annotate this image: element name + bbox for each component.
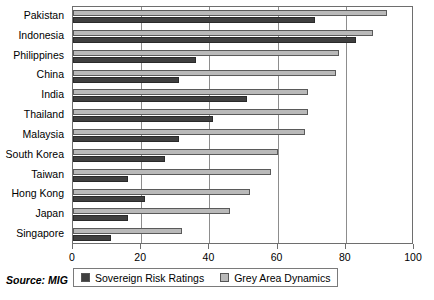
y-axis-label: China	[0, 69, 64, 80]
x-axis-tick-label: 0	[69, 251, 75, 263]
x-axis-tick	[208, 244, 209, 249]
bar-grey-area-dynamics	[73, 149, 278, 155]
y-axis-category-labels: PakistanIndonesiaPhilippinesChinaIndiaTh…	[0, 6, 68, 244]
bar-sovereign-risk-ratings	[73, 196, 145, 202]
y-axis-label: Singapore	[0, 228, 64, 239]
bar-row	[73, 67, 412, 87]
legend-label: Grey Area Dynamics	[234, 272, 330, 284]
bar-row	[73, 7, 412, 27]
bar-sovereign-risk-ratings	[73, 77, 179, 83]
bar-row	[73, 47, 412, 67]
bar-sovereign-risk-ratings	[73, 96, 247, 102]
bar-grey-area-dynamics	[73, 228, 182, 234]
bar-grey-area-dynamics	[73, 208, 230, 214]
bar-row	[73, 205, 412, 225]
x-axis-tick-label: 100	[404, 251, 422, 263]
bar-row	[73, 166, 412, 186]
source-note: Source: MIG	[6, 274, 68, 286]
bar-rows	[73, 7, 412, 243]
bar-grey-area-dynamics	[73, 70, 336, 76]
y-axis-label: Indonesia	[0, 30, 64, 41]
bar-sovereign-risk-ratings	[73, 235, 111, 241]
bar-grey-area-dynamics	[73, 89, 308, 95]
bar-sovereign-risk-ratings	[73, 136, 179, 142]
bar-row	[73, 27, 412, 47]
y-axis-label: Pakistan	[0, 10, 64, 21]
bar-row	[73, 106, 412, 126]
bar-grey-area-dynamics	[73, 129, 305, 135]
x-axis-tick	[413, 244, 414, 249]
x-axis-tick	[277, 244, 278, 249]
x-axis-tick-label: 80	[339, 251, 351, 263]
bar-grey-area-dynamics	[73, 30, 373, 36]
bar-sovereign-risk-ratings	[73, 37, 356, 43]
legend-swatch-icon	[81, 273, 90, 282]
y-axis-label: Japan	[0, 208, 64, 219]
bar-row	[73, 126, 412, 146]
x-axis-tick-label: 60	[271, 251, 283, 263]
bar-grey-area-dynamics	[73, 109, 308, 115]
bar-sovereign-risk-ratings	[73, 156, 165, 162]
y-axis-label: India	[0, 89, 64, 100]
x-axis-tick-label: 40	[203, 251, 215, 263]
bar-sovereign-risk-ratings	[73, 17, 315, 23]
bar-sovereign-risk-ratings	[73, 116, 213, 122]
y-axis-label: Malaysia	[0, 129, 64, 140]
y-axis-label: South Korea	[0, 149, 64, 160]
bar-grey-area-dynamics	[73, 10, 387, 16]
bar-grey-area-dynamics	[73, 169, 271, 175]
bar-sovereign-risk-ratings	[73, 57, 196, 63]
legend-label: Sovereign Risk Ratings	[95, 272, 204, 284]
bar-chart: PakistanIndonesiaPhilippinesChinaIndiaTh…	[0, 0, 434, 300]
legend-entry: Sovereign Risk Ratings	[81, 272, 204, 284]
legend-entry: Grey Area Dynamics	[220, 272, 330, 284]
x-axis-tick	[140, 244, 141, 249]
plot-area	[72, 6, 413, 244]
y-axis-label: Hong Kong	[0, 188, 64, 199]
y-axis-label: Thailand	[0, 109, 64, 120]
bar-sovereign-risk-ratings	[73, 176, 128, 182]
bar-grey-area-dynamics	[73, 50, 339, 56]
x-axis-tick	[345, 244, 346, 249]
bar-row	[73, 186, 412, 206]
y-axis-label: Philippines	[0, 50, 64, 61]
bar-sovereign-risk-ratings	[73, 215, 128, 221]
bar-row	[73, 146, 412, 166]
legend-swatch-icon	[220, 273, 229, 282]
chart-legend: Sovereign Risk RatingsGrey Area Dynamics	[73, 268, 338, 287]
x-axis-tick	[72, 244, 73, 249]
bar-grey-area-dynamics	[73, 189, 250, 195]
y-axis-label: Taiwan	[0, 169, 64, 180]
bar-row	[73, 86, 412, 106]
x-axis-tick-label: 20	[134, 251, 146, 263]
bar-row	[73, 225, 412, 245]
